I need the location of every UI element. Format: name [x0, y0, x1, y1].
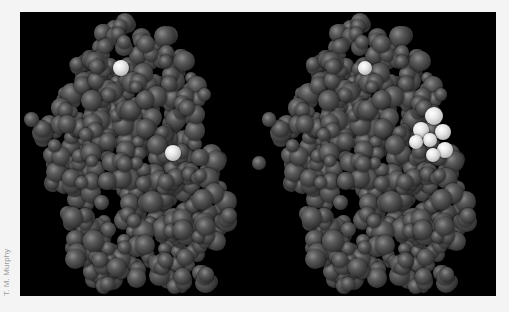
atom-sphere — [99, 133, 116, 150]
atom-sphere — [435, 88, 448, 101]
atom-sphere — [137, 35, 155, 53]
atom-sphere — [341, 222, 356, 237]
atom-sphere — [367, 268, 387, 288]
atom-sphere — [199, 267, 214, 282]
atom-sphere — [98, 172, 116, 190]
atom-sphere — [65, 249, 85, 269]
atom-sphere — [372, 90, 390, 108]
atom-sphere — [86, 155, 98, 167]
atom-sphere — [333, 195, 348, 210]
highlighted-atom — [426, 148, 440, 162]
atom-sphere — [136, 90, 154, 108]
highlighted-atom — [165, 145, 181, 161]
atom-sphere — [101, 222, 116, 237]
atom-sphere — [94, 195, 109, 210]
atom-sphere — [375, 235, 395, 255]
atom-sphere — [337, 133, 354, 150]
atom-sphere — [367, 214, 381, 228]
atom-sphere — [286, 139, 299, 152]
atom-sphere — [374, 176, 389, 191]
atom-sphere — [322, 230, 344, 252]
stereo-image-panel — [20, 12, 496, 296]
atom-sphere — [135, 235, 155, 255]
atom-sphere — [355, 35, 369, 49]
atom-sphere — [355, 156, 371, 172]
atom-sphere — [314, 176, 327, 189]
atom-sphere — [127, 268, 147, 288]
atom-sphere — [440, 267, 455, 282]
atom-sphere — [118, 241, 131, 254]
atom-sphere — [192, 189, 213, 210]
atom-sphere — [136, 176, 151, 191]
atom-sphere — [158, 253, 173, 268]
atom-sphere — [296, 115, 314, 133]
atom-sphere — [305, 249, 325, 269]
atom-sphere — [358, 241, 371, 254]
atom-sphere — [117, 35, 131, 49]
atom-sphere — [127, 214, 141, 228]
atom-sphere — [221, 208, 236, 223]
atom-sphere — [413, 220, 432, 239]
atom-sphere — [173, 220, 192, 239]
atom-sphere — [100, 277, 114, 291]
protein-model-left — [20, 12, 258, 296]
atom-sphere — [83, 230, 105, 252]
atom-sphere — [174, 51, 195, 72]
highlighted-atom — [423, 133, 437, 147]
atom-sphere — [48, 139, 61, 152]
atom-sphere — [380, 191, 402, 213]
atom-sphere — [196, 217, 215, 236]
atom-sphere — [158, 174, 174, 190]
atom-sphere — [79, 128, 92, 141]
highlighted-atom — [358, 61, 372, 75]
atom-sphere — [198, 88, 211, 101]
atom-sphere — [159, 55, 172, 68]
highlighted-atom — [425, 107, 443, 125]
atom-sphere — [62, 207, 83, 228]
atom-sphere — [130, 81, 142, 93]
highlighted-atom — [409, 135, 423, 149]
atom-sphere — [372, 35, 390, 53]
atom-sphere — [107, 258, 126, 277]
atom-sphere — [417, 249, 433, 265]
atom-sphere — [101, 88, 116, 103]
highlighted-atom — [113, 60, 129, 76]
atom-sphere — [179, 100, 195, 116]
atom-sphere — [415, 268, 432, 285]
atom-sphere — [431, 189, 452, 210]
atom-sphere — [460, 208, 475, 223]
atom-sphere — [24, 112, 39, 127]
atom-sphere — [410, 51, 431, 72]
atom-sphere — [348, 258, 367, 277]
atom-sphere — [177, 249, 193, 265]
atom-sphere — [262, 112, 277, 127]
protein-model-right — [258, 12, 496, 296]
atom-sphere — [332, 39, 347, 54]
atom-sphere — [395, 55, 408, 68]
atom-sphere — [325, 59, 341, 75]
highlighted-atom — [435, 124, 451, 140]
atom-sphere — [397, 174, 413, 190]
atom-sphere — [191, 149, 208, 166]
atom-sphere — [398, 253, 413, 268]
stray-atom — [252, 156, 266, 170]
atom-sphere — [130, 157, 142, 169]
atom-sphere — [141, 191, 163, 213]
photo-credit: T. M. Murphy — [2, 249, 11, 296]
